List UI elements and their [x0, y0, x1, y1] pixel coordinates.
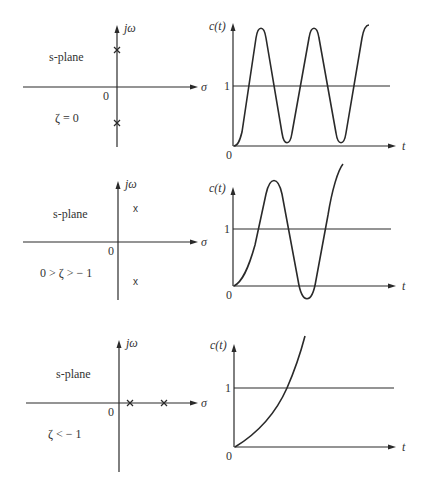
origin-label: 0	[108, 244, 114, 258]
row-1-response: c(t) t 1 0	[209, 19, 406, 162]
ref-label: 1	[224, 222, 230, 236]
response-curve	[234, 164, 343, 299]
t-label: t	[402, 440, 406, 454]
ct-arrow-icon	[232, 344, 237, 352]
pole-marker-icon: x	[133, 276, 138, 287]
splane-title: s-plane	[49, 50, 84, 64]
t-label: t	[402, 139, 406, 153]
origin-label: 0	[108, 405, 114, 419]
ct-label: c(t)	[210, 338, 227, 352]
t-arrow-icon	[388, 445, 396, 450]
row-1-splane: σ jω s-plane 0 ζ = 0	[23, 21, 208, 147]
origin-label: 0	[226, 288, 232, 302]
pole-marker-icon: x	[133, 203, 138, 214]
splane-title: s-plane	[53, 207, 88, 221]
jw-arrow-icon	[116, 181, 121, 189]
origin-label: 0	[226, 148, 232, 162]
row-2-response: c(t) t 1 0	[209, 164, 406, 302]
splane-title: s-plane	[56, 367, 91, 381]
sigma-arrow-icon	[190, 240, 198, 245]
t-arrow-icon	[388, 144, 396, 149]
sigma-label: σ	[201, 80, 208, 94]
ref-label: 1	[224, 79, 230, 93]
t-label: t	[402, 279, 406, 293]
sigma-label: σ	[201, 235, 208, 249]
row-2-splane: σ jω s-plane 0 0 > ζ > − 1 x x	[23, 177, 208, 300]
row-3-splane: σ jω s-plane 0 ζ < − 1	[26, 336, 208, 472]
ct-arrow-icon	[231, 187, 236, 195]
zeta-condition: ζ < − 1	[48, 427, 82, 441]
ct-arrow-icon	[231, 23, 236, 31]
row-3-response: c(t) t 1 0	[210, 336, 406, 463]
sigma-arrow-icon	[190, 85, 198, 90]
jw-arrow-icon	[115, 25, 120, 33]
zeta-condition: ζ = 0	[55, 111, 79, 125]
jw-label: jω	[123, 177, 137, 191]
jw-arrow-icon	[117, 340, 122, 348]
origin-label: 0	[103, 89, 109, 103]
ct-label: c(t)	[209, 19, 226, 33]
ref-label: 1	[225, 381, 231, 395]
root-drawing: σ jω s-plane 0 ζ = 0 c(t) t 1 0 σ jω s-p…	[0, 0, 431, 487]
jw-label: jω	[124, 336, 138, 350]
zeta-condition: 0 > ζ > − 1	[40, 266, 92, 280]
response-curve	[235, 336, 305, 447]
origin-label: 0	[226, 449, 232, 463]
sigma-arrow-icon	[190, 401, 198, 406]
sigma-label: σ	[201, 396, 208, 410]
ct-label: c(t)	[209, 181, 226, 195]
jw-label: jω	[122, 21, 136, 35]
t-arrow-icon	[388, 284, 396, 289]
